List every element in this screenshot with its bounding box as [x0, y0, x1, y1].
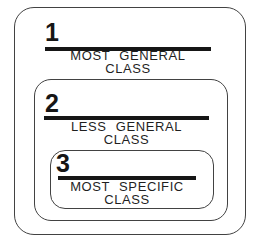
class-caption-1: MOST GENERAL CLASS	[45, 49, 211, 75]
caption-line: CLASS	[45, 62, 211, 75]
less-general-class-box: 2 LESS GENERAL CLASS 3 MOST SPECIFIC CLA…	[34, 79, 228, 221]
class-number-3: 3	[56, 151, 70, 176]
class-caption-3: MOST SPECIFIC CLASS	[58, 180, 196, 206]
most-general-class-box: 1 MOST GENERAL CLASS 2 LESS GENERAL CLAS…	[14, 7, 246, 235]
class-caption-2: LESS GENERAL CLASS	[44, 120, 209, 146]
class-number-1: 1	[45, 20, 59, 45]
class-number-2: 2	[45, 91, 59, 116]
caption-line: CLASS	[58, 193, 196, 206]
most-specific-class-box: 3 MOST SPECIFIC CLASS	[50, 150, 214, 209]
class-hierarchy-diagram: 1 MOST GENERAL CLASS 2 LESS GENERAL CLAS…	[0, 0, 258, 248]
caption-line: CLASS	[44, 133, 209, 146]
